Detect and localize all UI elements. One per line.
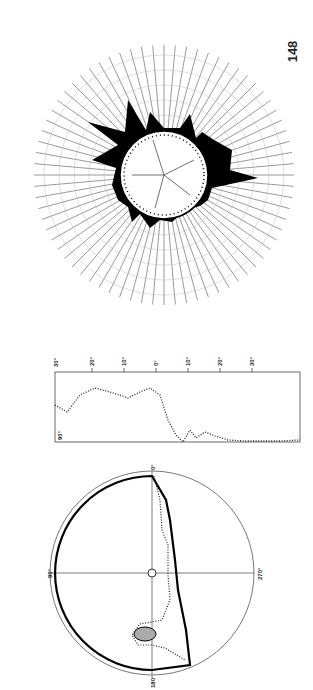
circle-plot: 0° 90° 180° 270° (47, 464, 263, 688)
svg-text:180°: 180° (150, 675, 156, 688)
svg-text:10°: 10° (121, 356, 127, 366)
svg-text:90°: 90° (47, 568, 53, 578)
svg-text:20°: 20° (217, 356, 223, 366)
svg-text:30°: 30° (53, 357, 59, 367)
svg-text:30°: 30° (249, 356, 255, 366)
svg-text:10°: 10° (185, 356, 191, 366)
polar-histogram (34, 45, 294, 305)
page-number: 148 (285, 41, 300, 63)
svg-text:0°: 0° (153, 360, 159, 366)
page-figures: 30° 20° 10° 0° 10° 20° 30° 90° 0° 90° 18… (0, 0, 313, 690)
profile-plot: 30° 20° 10° 0° 10° 20° 30° 90° (53, 356, 300, 442)
svg-text:0°: 0° (150, 464, 156, 470)
svg-text:270°: 270° (257, 567, 263, 580)
svg-text:90°: 90° (57, 430, 63, 440)
svg-text:20°: 20° (89, 356, 95, 366)
